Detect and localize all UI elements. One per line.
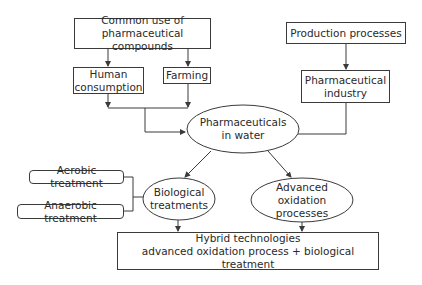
pharmaceutical-industry-line2: industry: [324, 87, 367, 100]
common-use-line2: pharmaceutical compounds: [75, 27, 210, 53]
aerobic-treatment-label: Aerobic treatment: [30, 164, 123, 190]
node-production-processes: Production processes: [286, 22, 406, 44]
node-aerobic-treatment: Aerobic treatment: [29, 170, 124, 184]
edge-water-to-advanced: [268, 151, 291, 177]
edge-merge-to-water: [145, 108, 185, 132]
node-biological-treatments: Biological treatments: [143, 178, 215, 220]
node-common-use: Common use of pharmaceutical compounds: [74, 18, 211, 49]
node-anaerobic-treatment: Anaerobic treatment: [17, 204, 124, 219]
production-processes-label: Production processes: [290, 27, 401, 40]
node-pharmaceuticals-in-water: Pharmaceuticals in water: [187, 105, 299, 153]
common-use-line1: Common use of: [101, 14, 184, 27]
anaerobic-treatment-label: Anaerobic treatment: [18, 199, 123, 225]
node-advanced-oxidation: Advanced oxidation processes: [251, 178, 353, 222]
edge-water-to-biological: [185, 151, 211, 177]
node-farming: Farming: [163, 67, 211, 84]
biological-treatments-line1: Biological: [154, 186, 205, 199]
hybrid-line1: Hybrid technologies: [196, 232, 301, 245]
human-consumption-line1: Human: [90, 68, 128, 81]
pharmaceutical-industry-line1: Pharmaceutical: [305, 74, 386, 87]
pharmaceuticals-in-water-line2: in water: [222, 129, 265, 142]
human-consumption-line2: consumption: [75, 81, 143, 94]
node-hybrid-technologies: Hybrid technologies advanced oxidation p…: [117, 232, 379, 270]
farming-label: Farming: [166, 69, 208, 82]
advanced-oxidation-line1: Advanced: [276, 181, 328, 194]
node-pharmaceutical-industry: Pharmaceutical industry: [301, 70, 390, 103]
advanced-oxidation-line2: oxidation processes: [251, 194, 353, 220]
edge-treatments-bracket: [124, 177, 133, 211]
pharmaceuticals-in-water-line1: Pharmaceuticals: [200, 116, 287, 129]
biological-treatments-line2: treatments: [150, 199, 208, 212]
hybrid-line2: advanced oxidation process + biological …: [118, 245, 378, 271]
node-human-consumption: Human consumption: [73, 67, 144, 94]
